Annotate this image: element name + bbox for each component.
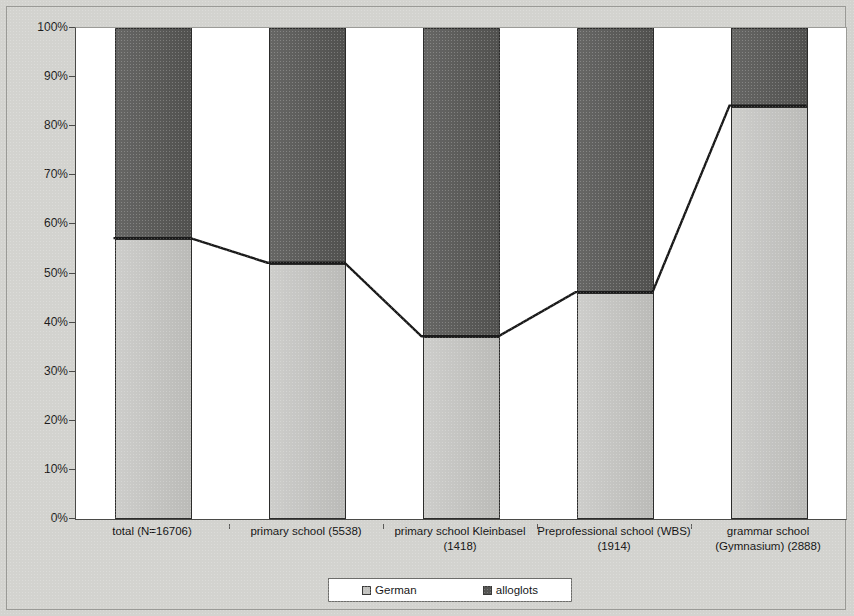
legend-label-german: German bbox=[375, 584, 417, 596]
x-axis-tick-mark bbox=[229, 524, 230, 529]
x-axis-tick-label: grammar school (Gymnasium) (2888) bbox=[691, 524, 845, 554]
y-axis-tick-label: 70% bbox=[44, 167, 68, 181]
y-axis-tick-mark bbox=[69, 371, 75, 372]
y-axis-tick-label: 80% bbox=[44, 118, 68, 132]
x-axis-tick-label: primary school Kleinbasel (1418) bbox=[383, 524, 537, 554]
legend-label-alloglots: alloglots bbox=[496, 584, 538, 596]
y-axis-tick-label: 40% bbox=[44, 315, 68, 329]
y-axis-tick-label: 60% bbox=[44, 216, 68, 230]
legend-item-german: German bbox=[362, 584, 417, 596]
x-axis: total (N=16706)primary school (5538)prim… bbox=[75, 524, 845, 570]
alloglots-swatch-icon bbox=[483, 586, 492, 595]
y-axis-tick-mark bbox=[69, 76, 75, 77]
y-axis-tick-mark bbox=[69, 518, 75, 519]
chart-figure: 100%90%80%70%60%50%40%30%20%10%0% total … bbox=[0, 0, 854, 616]
y-axis-tick-mark bbox=[69, 420, 75, 421]
x-axis-tick-label: total (N=16706) bbox=[75, 524, 229, 539]
y-axis-tick-mark bbox=[69, 322, 75, 323]
x-axis-tick-mark bbox=[691, 524, 692, 529]
x-axis-tick-label: Preprofessional school (WBS) (1914) bbox=[537, 524, 691, 554]
y-axis: 100%90%80%70%60%50%40%30%20%10%0% bbox=[0, 0, 68, 616]
y-axis-tick-mark bbox=[69, 27, 75, 28]
x-axis-tick-label: primary school (5538) bbox=[229, 524, 383, 539]
y-axis-tick-label: 50% bbox=[44, 266, 68, 280]
y-axis-tick-label: 100% bbox=[37, 20, 68, 34]
y-axis-tick-mark bbox=[69, 223, 75, 224]
legend-item-alloglots: alloglots bbox=[483, 584, 538, 596]
y-axis-tick-mark bbox=[69, 273, 75, 274]
x-axis-tick-mark bbox=[383, 524, 384, 529]
y-axis-tick-label: 20% bbox=[44, 413, 68, 427]
chart-legend: German alloglots bbox=[328, 578, 572, 602]
trend-line bbox=[75, 27, 845, 518]
x-axis-tick-mark bbox=[537, 524, 538, 529]
y-axis-tick-label: 90% bbox=[44, 69, 68, 83]
y-axis-tick-mark bbox=[69, 469, 75, 470]
y-axis-tick-mark bbox=[69, 125, 75, 126]
y-axis-tick-label: 10% bbox=[44, 462, 68, 476]
y-axis-tick-label: 0% bbox=[51, 511, 68, 525]
german-swatch-icon bbox=[362, 586, 371, 595]
y-axis-tick-mark bbox=[69, 174, 75, 175]
y-axis-tick-label: 30% bbox=[44, 364, 68, 378]
